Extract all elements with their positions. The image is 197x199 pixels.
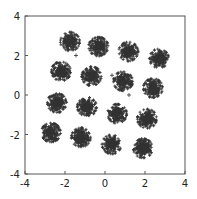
y-tick-label: 2 xyxy=(14,51,20,62)
x-tick-label: -4 xyxy=(20,178,30,189)
y-tick-label: 4 xyxy=(14,11,20,22)
y-tick-label: -2 xyxy=(10,130,20,141)
y-tick-label: -4 xyxy=(10,169,20,180)
scatter-chart: -4-2024 -4-2024 xyxy=(0,0,197,199)
x-tick-label: 4 xyxy=(182,178,188,189)
x-tick-label: -2 xyxy=(60,178,70,189)
y-tick-label: 0 xyxy=(14,90,20,101)
x-tick-label: 0 xyxy=(102,178,108,189)
x-tick-label: 2 xyxy=(142,178,148,189)
